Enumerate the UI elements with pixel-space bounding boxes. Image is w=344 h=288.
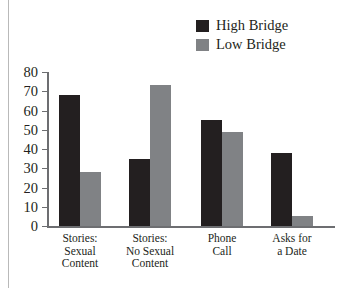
y-tick-60 [42,111,47,112]
y-tick-10 [42,207,47,208]
bar-high-bridge-group-3 [201,120,222,226]
legend-swatch-low-bridge [196,39,209,51]
plot-area: 80706050403020100 [47,72,335,226]
y-tick-50 [42,130,47,131]
legend-item-high-bridge: High Bridge [196,16,336,35]
x-axis-label-group-4: Asks for a Date [247,232,337,257]
y-tick-label-10: 10 [7,200,38,215]
legend-label-high-bridge: High Bridge [216,18,288,33]
bar-low-bridge-group-3 [222,132,243,226]
bar-high-bridge-group-1 [59,95,80,226]
y-tick-label-70: 70 [7,84,38,99]
y-tick-label-40: 40 [7,142,38,157]
y-tick-label-80: 80 [7,65,38,80]
y-tick-label-60: 60 [7,104,38,119]
y-tick-0 [42,226,47,227]
y-tick-20 [42,188,47,189]
y-tick-label-30: 30 [7,161,38,176]
x-axis-line [47,226,335,228]
y-tick-label-0: 0 [7,219,38,234]
bar-low-bridge-group-4 [292,216,313,226]
y-tick-70 [42,91,47,92]
y-tick-80 [42,72,47,73]
bar-high-bridge-group-4 [271,153,292,226]
legend-swatch-high-bridge [196,20,209,32]
y-tick-label-20: 20 [7,181,38,196]
y-axis-line [47,72,49,226]
legend-item-low-bridge: Low Bridge [196,35,336,54]
bar-low-bridge-group-1 [80,172,101,226]
bar-high-bridge-group-2 [129,159,150,226]
y-tick-30 [42,168,47,169]
y-tick-label-50: 50 [7,123,38,138]
legend-label-low-bridge: Low Bridge [216,37,286,52]
chart-legend: High Bridge Low Bridge [196,16,336,54]
bar-chart-figure: High Bridge Low Bridge 80706050403020100… [0,0,344,288]
y-tick-40 [42,149,47,150]
bar-low-bridge-group-2 [150,85,171,226]
